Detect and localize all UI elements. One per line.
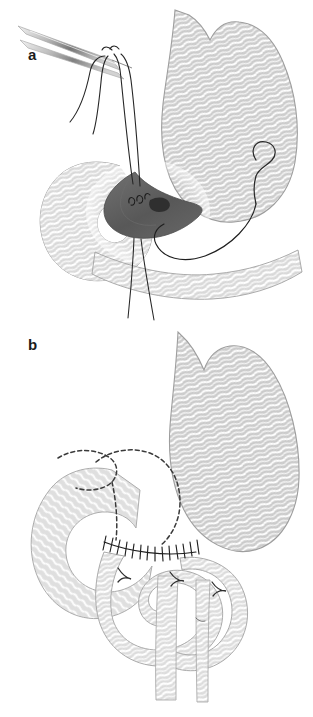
- mucosal-fold: [149, 198, 170, 212]
- panel-b-label: b: [28, 337, 37, 352]
- panel-a-illustration: [0, 0, 313, 340]
- panel-b-illustration: [0, 330, 313, 717]
- panel-a: a: [0, 0, 313, 340]
- panel-a-label: a: [28, 47, 36, 62]
- stomach-body: [170, 332, 300, 551]
- panel-b: b: [0, 330, 313, 717]
- duodenum-loop: [31, 468, 152, 619]
- jejunal-descending-limbs: [156, 576, 210, 702]
- surgical-figure: a: [0, 0, 313, 717]
